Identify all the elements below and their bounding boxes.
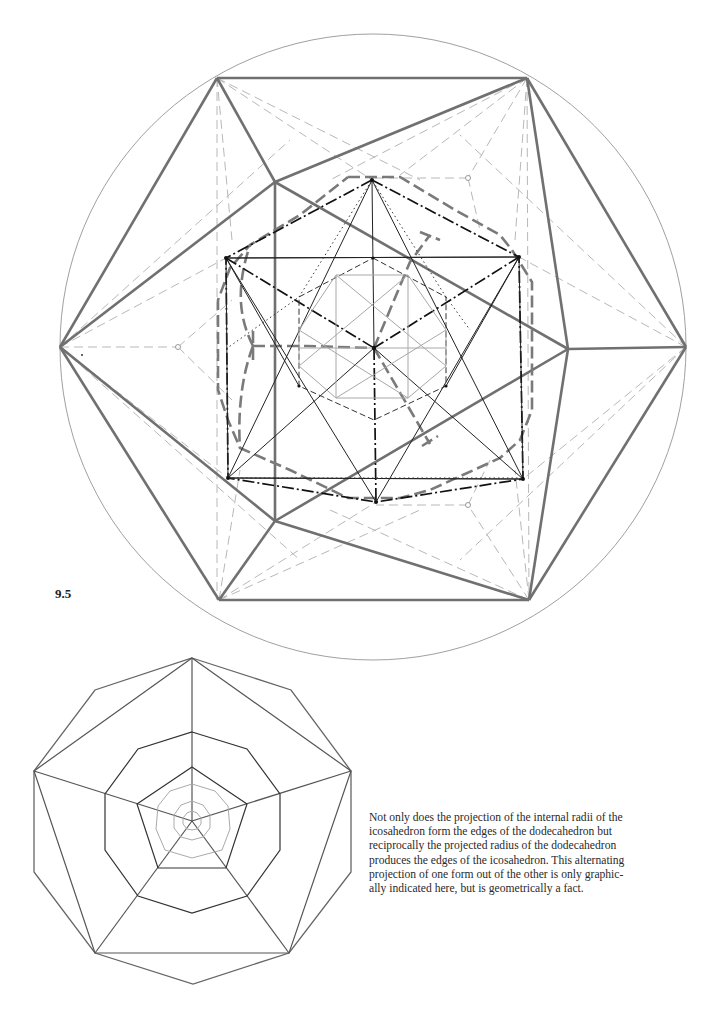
caption-line: produces the edges of the icosahedron. T… bbox=[369, 854, 714, 868]
caption-line: icosahedron form the edges of the dodeca… bbox=[369, 825, 714, 839]
caption-line: ally indicated here, but is geometricall… bbox=[369, 882, 714, 896]
page: 9.5 Not only does the projection of the … bbox=[0, 0, 721, 1013]
outer-pentagon-edges bbox=[34, 658, 351, 953]
caption-line: Not only does the projection of the inte… bbox=[369, 811, 714, 825]
caption-line: reciprocally the projected radius of the… bbox=[369, 839, 714, 853]
caption: Not only does the projection of the inte… bbox=[369, 811, 714, 896]
caption-line: projection of one form out of the other … bbox=[369, 868, 714, 882]
